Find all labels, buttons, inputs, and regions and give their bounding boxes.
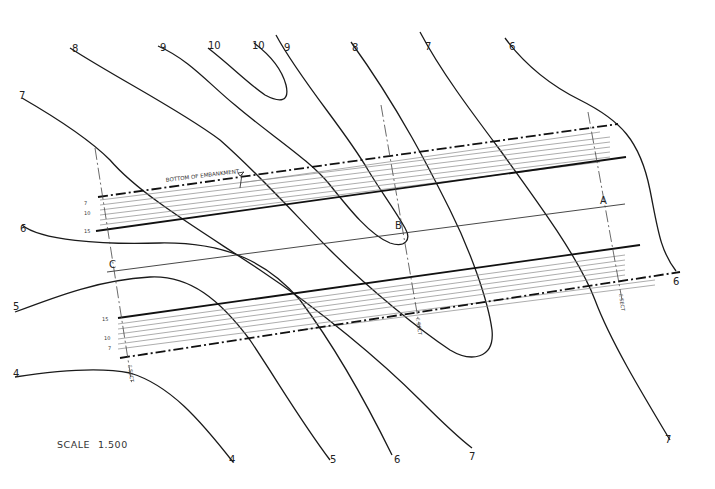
section-lines bbox=[95, 105, 622, 385]
upper-tick-10: 10 bbox=[84, 210, 90, 216]
drawing-svg: 8 9 10 10 9 8 7 6 7 6 5 4 4 5 6 7 7 6 C … bbox=[0, 0, 715, 489]
contour-label-7-top: 7 bbox=[425, 41, 431, 52]
contour-drawing: 8 9 10 10 9 8 7 6 7 6 5 4 4 5 6 7 7 6 C … bbox=[0, 0, 715, 489]
contour-label-5-left: 5 bbox=[13, 301, 19, 312]
scale-value: 1.500 bbox=[98, 439, 128, 450]
section-label-a: A bbox=[600, 195, 607, 206]
contour-label-9-top-left: 9 bbox=[160, 42, 166, 53]
leader-arrow bbox=[238, 172, 244, 188]
contour-label-4-left: 4 bbox=[13, 368, 19, 379]
contour-label-6-right: 6 bbox=[673, 276, 679, 287]
contour-label-6-top: 6 bbox=[509, 41, 515, 52]
contour-label-10-a: 10 bbox=[208, 40, 221, 51]
scale-label: SCALE bbox=[57, 439, 90, 450]
contour-label-8-top-right: 8 bbox=[352, 42, 358, 53]
contour-label-8-top-left: 8 bbox=[72, 43, 78, 54]
contour-label-10-b: 10 bbox=[252, 40, 265, 51]
contour-label-7-left: 7 bbox=[19, 90, 25, 101]
contour-lines bbox=[15, 32, 676, 462]
contour-label-5-bottom: 5 bbox=[330, 454, 336, 465]
sect-label-c: ℰ SECT bbox=[127, 364, 136, 383]
lower-tick-7: 7 bbox=[108, 345, 111, 351]
bottom-of-embankment-note: BOTTOM OF EMBANKMENT bbox=[165, 168, 240, 183]
contour-label-6-bottom: 6 bbox=[394, 454, 400, 465]
labels: 8 9 10 10 9 8 7 6 7 6 5 4 4 5 6 7 7 6 C … bbox=[13, 40, 679, 465]
contour-label-7-bottom: 7 bbox=[469, 451, 475, 462]
contour-label-6-left: 6 bbox=[20, 223, 26, 234]
lower-tick-10: 10 bbox=[104, 335, 110, 341]
lower-tick-15: 15 bbox=[102, 316, 108, 322]
section-label-c: C bbox=[109, 259, 116, 270]
section-label-b: B bbox=[395, 220, 402, 231]
sect-label-b: ℰ SECT bbox=[415, 317, 424, 336]
contour-label-4-bottom: 4 bbox=[229, 454, 235, 465]
contour-label-7-bottom-right: 7 bbox=[665, 434, 671, 445]
contour-label-9-top-right: 9 bbox=[284, 42, 290, 53]
sect-label-a: ℰ SECT bbox=[618, 293, 627, 312]
upper-tick-7: 7 bbox=[84, 200, 87, 206]
upper-tick-15: 15 bbox=[84, 228, 90, 234]
